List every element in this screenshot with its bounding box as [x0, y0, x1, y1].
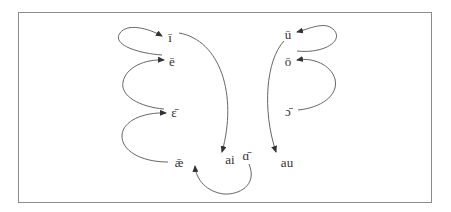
node-ai: ai: [225, 153, 234, 166]
edge-ae-to-eps: [122, 113, 168, 162]
node-u-long: ū: [285, 28, 292, 41]
node-ae-long: ǣ: [175, 156, 184, 169]
edge-u-to-au: [268, 41, 284, 152]
edge-eps-to-e: [123, 60, 164, 109]
node-au: au: [281, 156, 293, 169]
node-i-long: ī: [168, 31, 172, 44]
edge-o-to-u: [297, 26, 337, 52]
arrows-layer: [0, 0, 451, 212]
node-o-long: ō: [285, 55, 292, 68]
node-a-long: ɑ̄: [243, 149, 250, 162]
node-e-long: ē: [169, 55, 175, 68]
edge-e-to-i: [118, 27, 162, 55]
edge-a-to-ae: [195, 164, 251, 194]
node-open-e-long: ɛ̄: [171, 106, 176, 119]
edge-openo-to-o: [297, 59, 336, 110]
node-open-o-long: ɔ̄: [285, 105, 291, 118]
edge-i-to-ai: [179, 33, 228, 152]
